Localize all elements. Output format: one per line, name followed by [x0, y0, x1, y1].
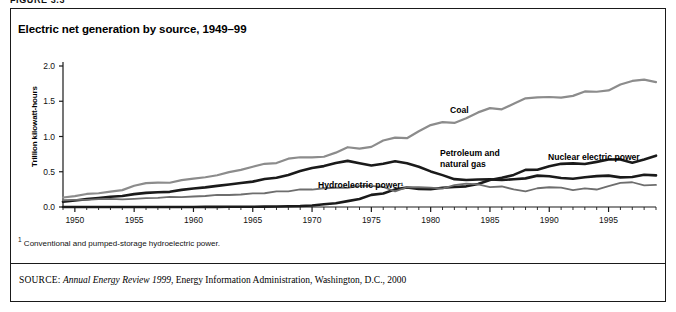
footnote-text: Conventional and pumped-storage hydroele… — [24, 239, 220, 248]
footnote: 1 Conventional and pumped-storage hydroe… — [18, 236, 220, 248]
x-tick-label: 1980 — [414, 215, 448, 225]
y-tick-label: 0.0 — [29, 202, 55, 212]
source-note: SOURCE: Annual Energy Review 1999, Energ… — [19, 275, 406, 285]
series-label-nuclear-electric-power: Nuclear electric power — [548, 152, 640, 163]
series-label-coal: Coal — [450, 105, 469, 116]
source-divider — [11, 263, 665, 264]
y-tick-label: 0.5 — [29, 167, 55, 177]
y-tick-label: 1.0 — [29, 132, 55, 142]
source-label: SOURCE: — [19, 275, 61, 285]
x-tick-label: 1960 — [176, 215, 210, 225]
series-label-hydroelectric-power: Hydroelectric power¹ — [318, 180, 403, 191]
x-tick-label: 1975 — [354, 215, 388, 225]
y-tick-label: 1.5 — [29, 96, 55, 106]
x-tick-label: 1985 — [473, 215, 507, 225]
x-tick-label: 1950 — [58, 215, 92, 225]
footnote-marker: 1 — [18, 236, 22, 243]
chart-title: Electric net generation by source, 1949–… — [18, 23, 246, 35]
x-tick-label: 1955 — [117, 215, 151, 225]
y-tick-label: 2.0 — [29, 61, 55, 71]
x-tick-label: 1995 — [592, 215, 626, 225]
figure-number: FIGURE 3.3 — [10, 0, 65, 5]
source-rest: , Energy Information Administration, Was… — [171, 275, 406, 285]
x-tick-label: 1970 — [295, 215, 329, 225]
series-label-petroleum-and-natural-gas: Petroleum and natural gas — [440, 148, 500, 169]
x-tick-label: 1990 — [532, 215, 566, 225]
x-tick-label: 1965 — [236, 215, 270, 225]
source-publication: Annual Energy Review 1999 — [63, 275, 171, 285]
